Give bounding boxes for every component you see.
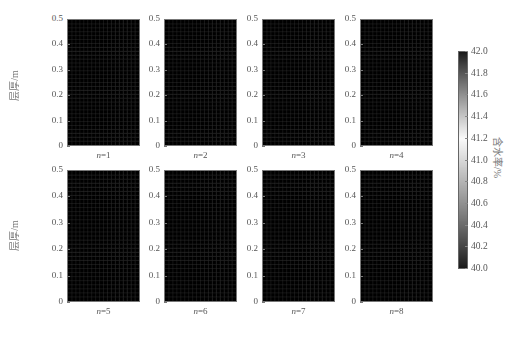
y-tick-label: 0 [43, 141, 63, 150]
y-tick-label: 0.3 [140, 218, 160, 227]
y-tick-mark [164, 170, 167, 171]
y-tick-mark [360, 146, 363, 147]
y-tick-mark [164, 223, 167, 224]
colorbar-tick-mark [465, 268, 468, 269]
y-tick-mark [360, 170, 363, 171]
y-tick-mark [164, 146, 167, 147]
y-tick-mark [67, 70, 70, 71]
y-tick-label: 0.2 [140, 244, 160, 253]
heatmap-panel-n3 [262, 19, 335, 146]
colorbar-tick-mark [465, 225, 468, 226]
y-tick-label: 0.3 [238, 65, 258, 74]
y-tick-label: 0 [140, 297, 160, 306]
y-tick-label: 0.1 [140, 116, 160, 125]
heatmap-panel-n6 [164, 170, 237, 302]
colorbar-tick-label: 40.0 [471, 263, 488, 273]
colorbar-tick-mark [465, 94, 468, 95]
colorbar-tick-label: 41.0 [471, 155, 488, 165]
y-tick-label: 0.3 [336, 65, 356, 74]
y-tick-mark [262, 95, 265, 96]
heatmap-panel-n8 [360, 170, 433, 302]
y-tick-label: 0.3 [43, 65, 63, 74]
colorbar-label: 含水率/% [491, 137, 506, 178]
y-tick-mark [262, 302, 265, 303]
colorbar-tick-mark [465, 116, 468, 117]
y-tick-mark [164, 196, 167, 197]
y-tick-label: 0.1 [140, 271, 160, 280]
panel-label-n2: n=2 [164, 150, 237, 160]
colorbar-tick-label: 41.2 [471, 133, 488, 143]
y-tick-label: 0.3 [336, 218, 356, 227]
panel-label-n5: n=5 [67, 306, 140, 316]
y-tick-mark [262, 70, 265, 71]
y-tick-label: 0 [336, 297, 356, 306]
y-tick-label: 0.1 [336, 116, 356, 125]
y-tick-mark [164, 302, 167, 303]
panel-label-n8: n=8 [360, 306, 433, 316]
y-tick-mark [67, 19, 70, 20]
y-tick-mark [262, 249, 265, 250]
y-tick-label: 0.1 [43, 116, 63, 125]
colorbar-tick-label: 41.4 [471, 111, 488, 121]
colorbar-tick-label: 40.2 [471, 241, 488, 251]
colorbar-tick-label: 42.0 [471, 46, 488, 56]
y-tick-label: 0.5 [238, 165, 258, 174]
y-tick-label: 0.4 [43, 191, 63, 200]
heatmap-panel-n2 [164, 19, 237, 146]
y-tick-mark [164, 249, 167, 250]
panel-label-n1: n=1 [67, 150, 140, 160]
y-tick-mark [360, 44, 363, 45]
y-tick-mark [67, 276, 70, 277]
y-tick-label: 0.3 [238, 218, 258, 227]
colorbar-tick-mark [465, 73, 468, 74]
y-tick-label: 0.5 [336, 14, 356, 23]
y-tick-label: 0.2 [336, 90, 356, 99]
y-tick-mark [67, 223, 70, 224]
y-axis-label-top: 层厚/m [6, 70, 21, 101]
y-tick-mark [262, 196, 265, 197]
y-tick-mark [262, 19, 265, 20]
y-tick-mark [67, 249, 70, 250]
y-tick-label: 0.1 [336, 271, 356, 280]
y-tick-label: 0 [43, 297, 63, 306]
y-tick-label: 0.4 [238, 191, 258, 200]
y-tick-mark [164, 44, 167, 45]
y-tick-mark [67, 44, 70, 45]
y-tick-mark [67, 95, 70, 96]
y-tick-mark [67, 146, 70, 147]
y-tick-label: 0.4 [140, 39, 160, 48]
y-tick-label: 0.4 [43, 39, 63, 48]
y-tick-label: 0.5 [140, 165, 160, 174]
y-tick-mark [262, 121, 265, 122]
y-tick-mark [67, 121, 70, 122]
heatmap-panel-n4 [360, 19, 433, 146]
y-tick-label: 0.4 [140, 191, 160, 200]
y-tick-mark [164, 121, 167, 122]
y-tick-label: 0.1 [238, 116, 258, 125]
y-tick-mark [67, 196, 70, 197]
y-tick-label: 0.4 [336, 39, 356, 48]
y-tick-mark [262, 170, 265, 171]
y-tick-mark [360, 249, 363, 250]
colorbar-tick-mark [465, 160, 468, 161]
y-tick-mark [164, 95, 167, 96]
y-tick-mark [67, 302, 70, 303]
y-tick-mark [360, 196, 363, 197]
y-tick-label: 0.1 [238, 271, 258, 280]
y-tick-label: 0.1 [43, 271, 63, 280]
panel-label-n3: n=3 [262, 150, 335, 160]
y-tick-label: 0.5 [43, 14, 63, 23]
y-tick-mark [164, 70, 167, 71]
y-tick-mark [360, 121, 363, 122]
y-tick-label: 0.5 [336, 165, 356, 174]
y-tick-mark [262, 276, 265, 277]
heatmap-panel-n7 [262, 170, 335, 302]
y-tick-label: 0.4 [238, 39, 258, 48]
panel-label-n4: n=4 [360, 150, 433, 160]
y-tick-label: 0 [140, 141, 160, 150]
y-tick-label: 0.2 [140, 90, 160, 99]
y-tick-mark [360, 276, 363, 277]
y-tick-mark [360, 70, 363, 71]
y-tick-label: 0.5 [43, 165, 63, 174]
y-tick-label: 0.4 [336, 191, 356, 200]
